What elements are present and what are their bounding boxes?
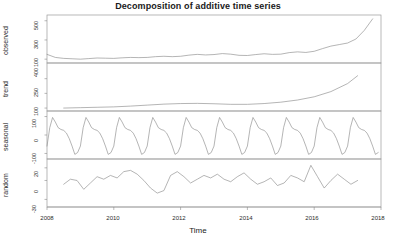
panel-frame-random <box>47 159 381 207</box>
series-line-observed <box>47 19 373 59</box>
decomposition-chart: Decomposition of additive time series ob… <box>0 0 396 243</box>
series-line-seasonal <box>47 117 378 154</box>
series-line-random <box>64 165 358 193</box>
series-line-trend <box>64 76 358 108</box>
panel-frame-seasonal <box>47 111 381 159</box>
panel-frame-observed <box>47 15 381 63</box>
plot-canvas <box>0 0 396 243</box>
